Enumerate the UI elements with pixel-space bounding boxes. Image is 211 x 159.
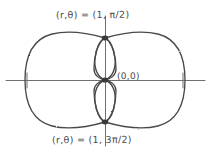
node-marker-origin: [102, 77, 109, 82]
node-marker-bottom: [102, 120, 108, 125]
label-bottom-point: (r,θ) = (1, 3π/2): [52, 134, 132, 146]
node-marker-top: [102, 36, 108, 41]
label-top-point: (r,θ) = (1, π/2): [56, 9, 129, 21]
label-origin-point: (0,0): [117, 71, 140, 81]
